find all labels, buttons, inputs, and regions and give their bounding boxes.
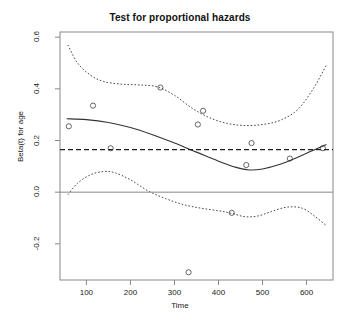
- y-tick-label: 0.4: [32, 75, 41, 101]
- x-tick-label: 200: [115, 288, 145, 297]
- data-point-marker: [66, 124, 71, 129]
- chart-figure: Test for proportional hazards Beta(t) fo…: [0, 0, 360, 324]
- confidence-band-line: [68, 45, 326, 126]
- y-axis-label: Beta(t) for age: [16, 87, 25, 187]
- y-tick-label: 0.6: [32, 24, 41, 50]
- x-tick-label: 500: [248, 288, 278, 297]
- x-tick-label: 400: [204, 288, 234, 297]
- plot-canvas: [0, 0, 360, 324]
- y-tick-label: 0.2: [32, 127, 41, 153]
- data-point-marker: [186, 270, 191, 275]
- x-axis-label: Time: [0, 301, 360, 310]
- y-tick-label: 0.0: [32, 179, 41, 205]
- x-tick-label: 300: [159, 288, 189, 297]
- data-point-marker: [195, 122, 200, 127]
- data-point-marker: [249, 140, 254, 145]
- plot-frame: [60, 32, 333, 280]
- data-point-marker: [244, 162, 249, 167]
- x-tick-label: 100: [71, 288, 101, 297]
- data-point-marker: [158, 85, 163, 90]
- data-point-marker: [201, 108, 206, 113]
- x-tick-label: 600: [292, 288, 322, 297]
- confidence-band-line: [68, 171, 326, 225]
- y-tick-label: -0.2: [32, 230, 41, 256]
- data-point-marker: [90, 103, 95, 108]
